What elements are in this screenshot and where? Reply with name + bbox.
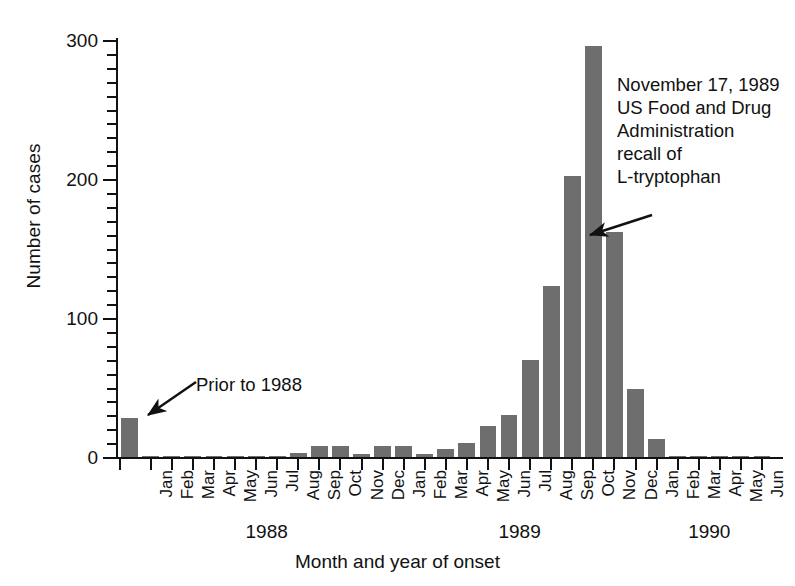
x-tick-22 — [592, 459, 594, 470]
x-tick-12 — [382, 459, 384, 470]
bar-slot — [163, 40, 180, 457]
x-tick-14 — [424, 459, 426, 470]
x-tick-6 — [255, 459, 257, 470]
y-tick-100 — [103, 318, 116, 320]
x-tick-1 — [150, 459, 152, 470]
bar-may-29 — [732, 456, 749, 458]
y-tick-140 — [107, 262, 116, 264]
y-tick-30 — [107, 415, 116, 417]
x-label-May-17: May — [494, 470, 514, 502]
y-tick-300 — [103, 40, 116, 42]
x-label-Jun-6: Jun — [262, 470, 282, 497]
bar-slot — [437, 40, 454, 457]
x-tick-26 — [677, 459, 679, 470]
bar-aug-8 — [290, 453, 307, 457]
bar-slot — [564, 40, 581, 457]
bar-slot — [121, 40, 138, 457]
x-label-Nov-11: Nov — [368, 470, 388, 500]
bar-mar-27 — [690, 456, 707, 458]
bar-nov-11 — [353, 454, 370, 457]
x-tick-2 — [171, 459, 173, 470]
x-label-Mar-15: Mar — [452, 470, 472, 499]
x-axis-line — [116, 457, 783, 459]
y-tick-110 — [107, 304, 116, 306]
x-label-Dec-24: Dec — [642, 470, 662, 500]
y-tick-120 — [107, 290, 116, 292]
bar-apr-28 — [711, 456, 728, 458]
x-label-Sep-21: Sep — [578, 470, 598, 500]
year-label-1988: 1988 — [235, 521, 299, 543]
y-tick-290 — [107, 54, 116, 56]
x-tick-29 — [740, 459, 742, 470]
y-axis-title: Number of cases — [23, 106, 45, 326]
bar-jun-6 — [248, 456, 265, 458]
x-label-Aug-20: Aug — [557, 470, 577, 500]
y-tick-70 — [107, 360, 116, 362]
x-axis-title: Month and year of onset — [0, 551, 795, 573]
x-tick-5 — [234, 459, 236, 470]
x-tick-24 — [635, 459, 637, 470]
bar-feb-26 — [669, 456, 686, 458]
y-tick-label-300: 300 — [66, 31, 98, 50]
x-label-Aug-8: Aug — [304, 470, 324, 500]
x-label-Jul-7: Jul — [283, 470, 303, 492]
x-label-Jan-1: Jan — [157, 470, 177, 497]
annotation-prior-to-1988: Prior to 1988 — [196, 374, 302, 396]
bar-slot — [332, 40, 349, 457]
x-label-Feb-26: Feb — [684, 470, 704, 499]
bar-aug-20 — [543, 286, 560, 457]
y-tick-230 — [107, 137, 116, 139]
bar-slot — [416, 40, 433, 457]
bar-apr-4 — [206, 456, 223, 458]
x-label-Jun-18: Jun — [515, 470, 535, 497]
y-tick-250 — [107, 110, 116, 112]
y-tick-220 — [107, 151, 116, 153]
x-label-Apr-28: Apr — [726, 470, 746, 496]
x-label-Feb-2: Feb — [178, 470, 198, 499]
bar-slot — [374, 40, 391, 457]
bar-jul-19 — [522, 360, 539, 457]
x-tick-25 — [656, 459, 658, 470]
x-label-Sep-9: Sep — [325, 470, 345, 500]
bar-prior-to-1988-0 — [121, 418, 138, 457]
x-label-Jul-19: Jul — [536, 470, 556, 492]
x-label-Mar-27: Mar — [705, 470, 725, 499]
x-label-Apr-4: Apr — [220, 470, 240, 496]
y-tick-180 — [107, 207, 116, 209]
bar-jan-13 — [395, 446, 412, 457]
bar-oct-22 — [585, 46, 602, 457]
x-tick-0 — [119, 459, 121, 470]
bar-may-5 — [227, 456, 244, 458]
x-label-Mar-3: Mar — [199, 470, 219, 499]
bar-slot — [353, 40, 370, 457]
y-tick-190 — [107, 193, 116, 195]
bar-may-17 — [480, 426, 497, 457]
bar-slot — [501, 40, 518, 457]
y-tick-170 — [107, 221, 116, 223]
y-tick-20 — [107, 429, 116, 431]
y-tick-280 — [107, 68, 116, 70]
bar-slot — [543, 40, 560, 457]
y-tick-150 — [107, 249, 116, 251]
bar-mar-15 — [437, 449, 454, 457]
year-label-1990: 1990 — [677, 521, 741, 543]
bar-jan-25 — [648, 439, 665, 457]
bar-slot — [311, 40, 328, 457]
y-tick-50 — [107, 388, 116, 390]
x-tick-27 — [698, 459, 700, 470]
x-label-Dec-12: Dec — [389, 470, 409, 500]
x-tick-16 — [466, 459, 468, 470]
chart-figure: Number of cases 0100200300 JanFebMarAprM… — [0, 0, 795, 586]
bar-slot — [522, 40, 539, 457]
bar-mar-3 — [184, 456, 201, 458]
bar-oct-10 — [332, 446, 349, 457]
y-tick-210 — [107, 165, 116, 167]
x-label-Feb-14: Feb — [431, 470, 451, 499]
bar-sep-9 — [311, 446, 328, 457]
x-label-Oct-22: Oct — [599, 470, 619, 496]
bar-nov-23 — [606, 232, 623, 457]
x-tick-13 — [403, 459, 405, 470]
x-tick-8 — [297, 459, 299, 470]
x-label-Apr-16: Apr — [473, 470, 493, 496]
y-tick-240 — [107, 123, 116, 125]
